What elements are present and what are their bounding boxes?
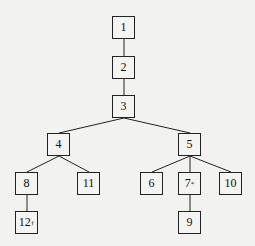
node-label: 2 [121, 60, 127, 75]
node-label: 9 [187, 215, 193, 230]
node-label: 6 [149, 176, 155, 191]
edge-3-4 [59, 118, 124, 133]
node-8: 8 [15, 172, 38, 195]
node-label: 12 [19, 215, 31, 230]
node-12: 12† [15, 211, 38, 234]
node-label: 11 [83, 176, 95, 191]
node-2: 2 [112, 56, 135, 79]
node-3: 3 [112, 95, 135, 118]
node-1: 1 [112, 16, 135, 39]
node-10: 10 [219, 172, 242, 195]
node-label: 10 [225, 176, 237, 191]
node-9: 9 [178, 211, 201, 234]
edge-4-8 [27, 156, 59, 172]
node-5: 5 [178, 133, 201, 156]
node-4: 4 [47, 133, 70, 156]
node-label: 5 [187, 137, 193, 152]
edge-3-5 [124, 118, 190, 133]
edge-5-10 [190, 156, 231, 172]
node-11: 11 [77, 172, 100, 195]
node-label: 8 [24, 176, 30, 191]
node-mark: * [191, 180, 195, 188]
edge-5-6 [152, 156, 190, 172]
edge-4-11 [59, 156, 89, 172]
node-label: 1 [121, 20, 127, 35]
node-label: 3 [121, 99, 127, 114]
node-label: 4 [56, 137, 62, 152]
node-7: 7* [178, 172, 201, 195]
node-mark: † [31, 219, 35, 227]
node-6: 6 [140, 172, 163, 195]
